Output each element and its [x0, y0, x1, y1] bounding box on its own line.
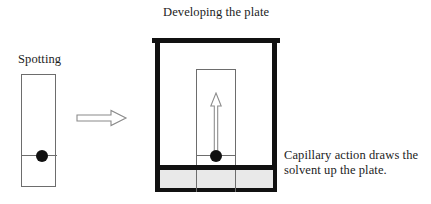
right-arrow-icon [76, 108, 128, 128]
spotting-tlc-plate [21, 74, 56, 187]
spotting-sample-spot [36, 150, 48, 162]
developing-panel-title: Developing the plate [163, 5, 269, 20]
capillary-action-caption: Capillary action draws the solvent up th… [284, 148, 429, 178]
chamber-lid [152, 38, 280, 43]
spotting-panel-label: Spotting [18, 52, 61, 67]
up-arrow-icon [209, 92, 223, 154]
figure-canvas: Developing the plate Spotting [0, 0, 431, 204]
developing-chamber [152, 38, 280, 192]
developing-sample-spot [210, 150, 222, 162]
developing-tlc-plate-submerged [196, 170, 236, 188]
